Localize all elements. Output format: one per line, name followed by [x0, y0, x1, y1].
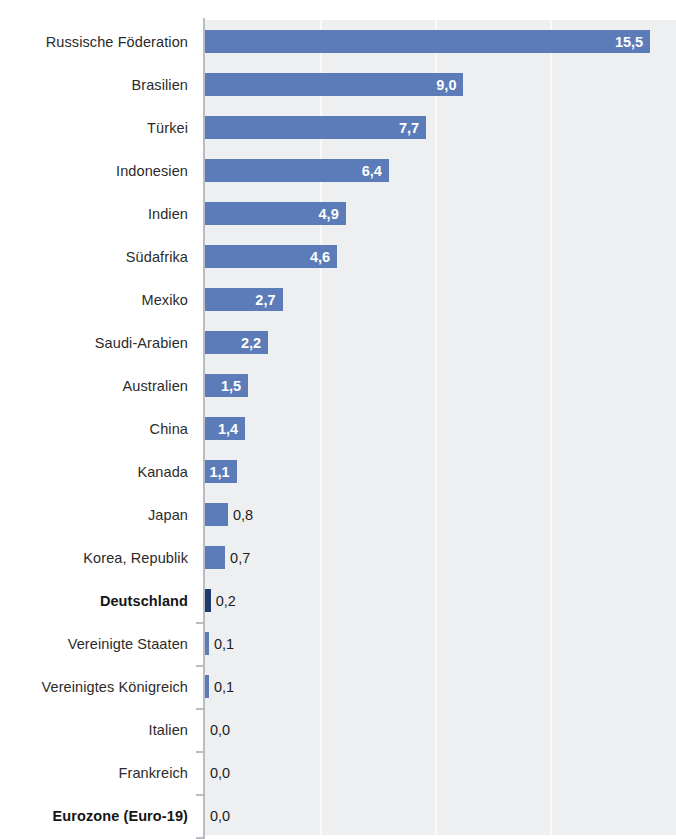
- bar-row[interactable]: Brasilien9,0: [0, 63, 676, 106]
- bar[interactable]: [205, 675, 209, 698]
- bar-row[interactable]: China1,4: [0, 407, 676, 450]
- bar-chart: Russische Föderation15,5Brasilien9,0Türk…: [0, 0, 676, 839]
- category-label: Italien: [0, 708, 188, 751]
- category-label: Eurozone (Euro-19): [0, 794, 188, 837]
- bar-row[interactable]: Russische Föderation15,5: [0, 20, 676, 63]
- category-label: Japan: [0, 493, 188, 536]
- bar-value-label: 2,7: [205, 288, 283, 311]
- bar-value-label: 9,0: [205, 73, 463, 96]
- bar-value-label: 1,1: [205, 460, 237, 483]
- bar-value-label: 0,0: [210, 761, 230, 784]
- bar[interactable]: [205, 632, 209, 655]
- category-label: Indonesien: [0, 149, 188, 192]
- bar-value-label: 4,6: [205, 245, 337, 268]
- bar-value-label: 0,1: [214, 632, 234, 655]
- bar-row[interactable]: Australien1,5: [0, 364, 676, 407]
- category-label: Südafrika: [0, 235, 188, 278]
- bar-row[interactable]: Italien0,0: [0, 708, 676, 751]
- bar-value-label: 1,5: [205, 374, 248, 397]
- bar-value-label: 15,5: [205, 30, 650, 53]
- category-label: Kanada: [0, 450, 188, 493]
- bar-row[interactable]: Vereinigte Staaten0,1: [0, 622, 676, 665]
- category-label: Deutschland: [0, 579, 188, 622]
- category-label: Frankreich: [0, 751, 188, 794]
- category-label: Brasilien: [0, 63, 188, 106]
- bar-value-label: 6,4: [205, 159, 389, 182]
- bar-row[interactable]: Indonesien6,4: [0, 149, 676, 192]
- bar-row[interactable]: Kanada1,1: [0, 450, 676, 493]
- category-label: Mexiko: [0, 278, 188, 321]
- bar[interactable]: [205, 589, 211, 612]
- bar-row[interactable]: Indien4,9: [0, 192, 676, 235]
- category-label: Russische Föderation: [0, 20, 188, 63]
- bar-value-label: 0,8: [233, 503, 253, 526]
- bar-value-label: 1,4: [205, 417, 245, 440]
- bar-row[interactable]: Deutschland0,2: [0, 579, 676, 622]
- category-label: Indien: [0, 192, 188, 235]
- bar-value-label: 0,2: [216, 589, 236, 612]
- category-label: Vereinigte Staaten: [0, 622, 188, 665]
- bar-row[interactable]: Mexiko2,7: [0, 278, 676, 321]
- bar-value-label: 7,7: [205, 116, 426, 139]
- bar-row[interactable]: Korea, Republik0,7: [0, 536, 676, 579]
- category-label: Türkei: [0, 106, 188, 149]
- bar-value-label: 0,0: [210, 804, 230, 827]
- bar-row[interactable]: Türkei7,7: [0, 106, 676, 149]
- bar-value-label: 4,9: [205, 202, 346, 225]
- category-label: China: [0, 407, 188, 450]
- category-label: Korea, Republik: [0, 536, 188, 579]
- bar-row[interactable]: Frankreich0,0: [0, 751, 676, 794]
- bar-value-label: 0,1: [214, 675, 234, 698]
- bar-row[interactable]: Eurozone (Euro-19)0,0: [0, 794, 676, 837]
- bar[interactable]: [205, 546, 225, 569]
- bar-row[interactable]: Südafrika4,6: [0, 235, 676, 278]
- category-label: Vereinigtes Königreich: [0, 665, 188, 708]
- bar[interactable]: [205, 503, 228, 526]
- category-label: Australien: [0, 364, 188, 407]
- bar-value-label: 0,7: [230, 546, 250, 569]
- category-label: Saudi-Arabien: [0, 321, 188, 364]
- bar-value-label: 0,0: [210, 718, 230, 741]
- bar-row[interactable]: Japan0,8: [0, 493, 676, 536]
- bar-row[interactable]: Saudi-Arabien2,2: [0, 321, 676, 364]
- bar-row[interactable]: Vereinigtes Königreich0,1: [0, 665, 676, 708]
- bar-value-label: 2,2: [205, 331, 268, 354]
